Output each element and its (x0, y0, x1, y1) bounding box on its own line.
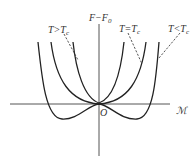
y-axis-label: F−F0 (88, 12, 112, 25)
x-axis-label: ℳ (176, 105, 188, 116)
leader-t-below-tc (159, 33, 180, 58)
landau-free-energy-diagram: F−F0 T>Tc T=Tc T<Tc O ℳ (0, 0, 195, 164)
origin-label: O (100, 107, 107, 118)
label-t-above-tc: T>Tc (48, 24, 70, 37)
label-t-equal-tc: T=Tc (119, 23, 141, 36)
leader-t-equal-tc (128, 33, 142, 64)
leader-t-above-tc (64, 34, 78, 60)
